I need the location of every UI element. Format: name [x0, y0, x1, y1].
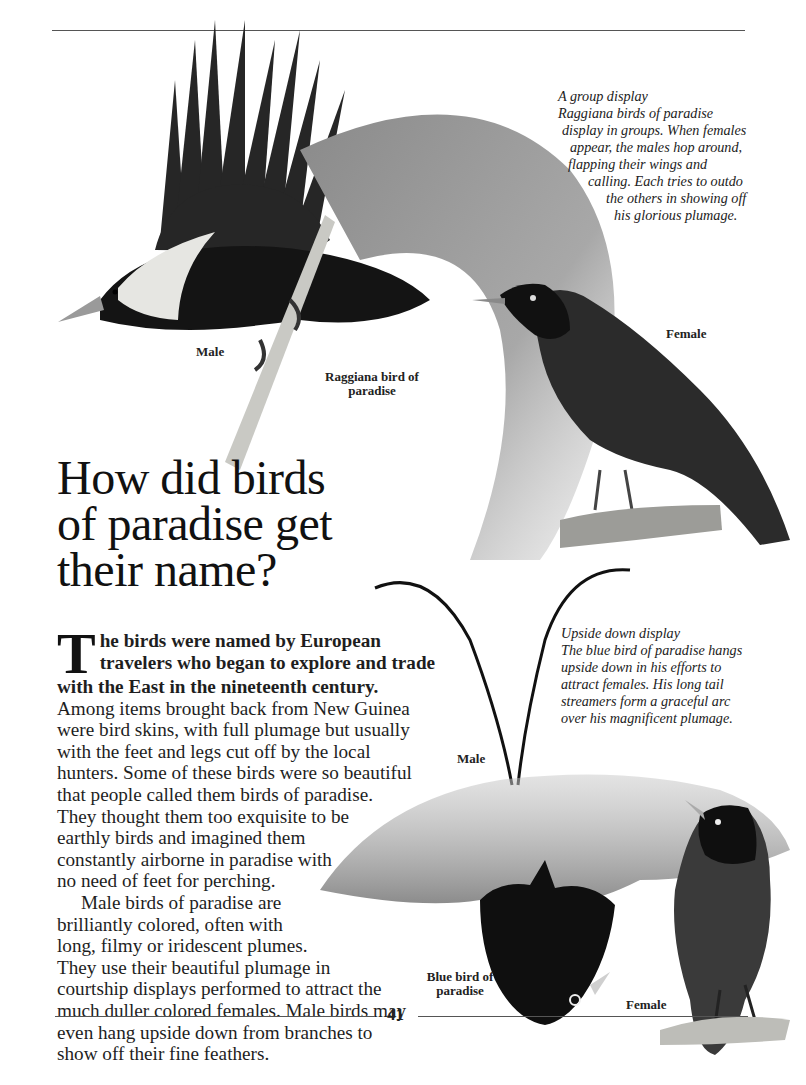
caption-upside-down-display: Upside down display The blue bird of par…: [561, 625, 801, 727]
footer-rule-right: [418, 1016, 748, 1017]
footer-rule-left: [55, 1016, 375, 1017]
caption-title: A group display: [558, 88, 798, 105]
lead-paragraph: T he birds were named by European travel…: [57, 630, 437, 698]
label-blue-male: Male: [457, 752, 485, 766]
blue-female-head: [698, 805, 756, 864]
label-blue-female: Female: [626, 998, 666, 1012]
drop-cap: T: [57, 632, 96, 676]
label-raggiana-species: Raggiana bird of paradise: [322, 370, 422, 398]
label-raggiana-female: Female: [666, 327, 706, 341]
blue-female-perch: [660, 1017, 790, 1045]
raggiana-male-wing: [155, 20, 345, 260]
page-number: 41: [387, 1005, 404, 1025]
body-text: T he birds were named by European travel…: [57, 630, 437, 1065]
label-raggiana-male: Male: [196, 345, 224, 359]
raggiana-male-beak: [58, 296, 104, 322]
caption-title: Upside down display: [561, 625, 801, 642]
paragraph-1: Among items brought back from New Guinea…: [57, 698, 437, 892]
paragraph-2: Male birds of paradise are brilliantly c…: [57, 892, 437, 1065]
caption-group-display: A group display Raggiana birds of paradi…: [558, 88, 798, 224]
page-title: How did birds of paradise get their name…: [57, 455, 332, 593]
raggiana-perch: [560, 505, 722, 548]
